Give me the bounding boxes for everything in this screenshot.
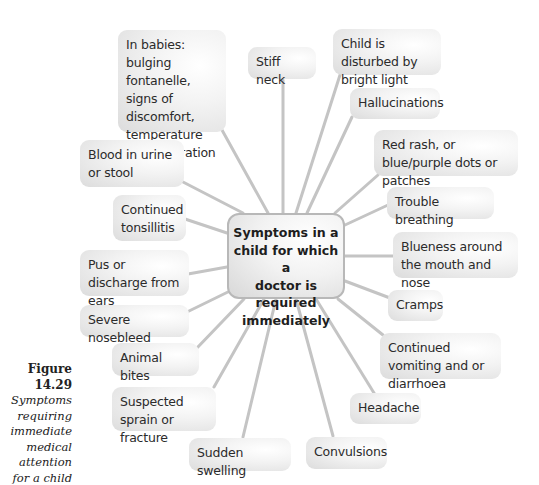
node-red-rash: Red rash, or blue/purple dots or patches [374,130,518,176]
center-line-1: Symptoms in a [231,224,341,242]
node-stiff-neck: Stiff neck [248,47,316,79]
node-convulsions: Convulsions [306,437,387,469]
node-sudden-swelling: Sudden swelling [189,438,291,471]
link-nosebleed [187,290,232,312]
node-headache: Headache [350,393,421,424]
center-line-4: immediately [231,312,341,330]
link-ears [188,267,227,274]
node-ears: Pus or discharge from ears [80,250,189,296]
node-blueness: Blueness around the mouth and nose [393,232,518,278]
node-trouble-breathing: Trouble breathing [387,187,494,219]
figure-description: Symptoms requiring immediate medical att… [0,393,72,485]
link-babies [222,130,268,213]
link-hallucinations [307,117,352,213]
node-sprain: Suspected sprain or fracture [112,387,216,431]
link-vomiting [338,299,383,335]
figure-number: Figure 14.29 [0,362,72,393]
node-vomiting: Continued vomiting and or diarrhoea [380,333,501,379]
link-cramps [345,281,390,298]
figure-caption: Figure 14.29 Symptoms requiring immediat… [0,362,72,485]
node-hallucinations: Hallucinations [350,88,440,119]
node-babies: In babies: bulging fontanelle, signs of … [118,30,226,132]
link-blood [183,182,243,213]
link-trouble-breathing [345,205,388,225]
link-tonsillitis [185,219,227,233]
node-blood: Blood in urine or stool [80,140,184,187]
central-topic: Symptoms in a child for which a doctor i… [227,213,345,299]
center-line-2: child for which a [231,242,341,277]
link-red-rash [335,175,378,213]
node-animal-bites: Animal bites [112,343,199,376]
node-bright-light: Child is disturbed by bright light [333,29,441,75]
node-cramps: Cramps [388,290,443,321]
center-line-3: doctor is required [231,277,341,312]
node-tonsillitis: Continued tonsillitis [113,195,186,241]
